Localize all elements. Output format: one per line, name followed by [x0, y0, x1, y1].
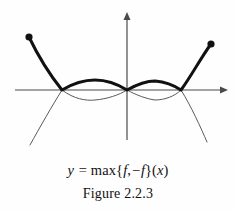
y-axis-arrowhead-icon [124, 12, 131, 20]
x-axis-arrowhead-icon [220, 87, 228, 94]
left-endpoint-dot [25, 33, 32, 40]
equation-max-operator: max [91, 162, 116, 178]
equation-equals-sign: = [79, 162, 87, 178]
figure-container: y = max{f,−f}(x) Figure 2.2.3 [0, 0, 236, 211]
equation-caption: y = max{f,−f}(x) [0, 162, 236, 179]
thick-curve-max [29, 37, 211, 90]
right-endpoint-dot [207, 40, 214, 47]
equation-close-paren: ) [164, 162, 169, 178]
axes-group [15, 12, 228, 140]
thin-curve-f [30, 90, 207, 145]
equation-negative-f: −f [131, 162, 145, 178]
figure-number-label: Figure 2.2.3 [0, 186, 236, 202]
plot-area [0, 0, 236, 160]
equation-variable-y: y [68, 162, 75, 178]
